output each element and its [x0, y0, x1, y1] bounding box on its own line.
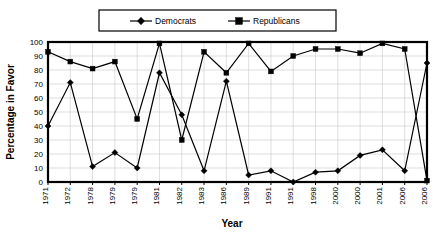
x-tick-label: 1986: [219, 186, 228, 204]
x-tick-label: 1978: [86, 186, 95, 204]
y-tick-label: 90: [34, 52, 43, 61]
square-marker-icon: [135, 117, 140, 122]
square-marker-icon: [46, 49, 51, 54]
x-tick-label: 1972: [63, 186, 72, 204]
x-tick-label: 1998: [309, 186, 318, 204]
x-tick-label: 2006: [398, 186, 407, 204]
y-tick-label: 60: [34, 94, 43, 103]
x-tick-label: 1982: [175, 186, 184, 204]
x-tick-label: 1991: [286, 186, 295, 204]
legend-label-republicans: Republicans: [253, 16, 300, 26]
square-marker-icon: [90, 66, 95, 71]
y-tick-label: 10: [34, 164, 43, 173]
x-tick-label: 1991: [264, 186, 273, 204]
square-marker-icon: [246, 41, 251, 46]
x-tick-label: 2000: [353, 186, 362, 204]
x-tick-label: 1971: [41, 186, 50, 204]
square-marker-icon: [380, 41, 385, 46]
square-marker-icon: [402, 47, 407, 52]
square-marker-icon: [202, 49, 207, 54]
chart-canvas: 0102030405060708090100 19711972197819791…: [0, 0, 442, 235]
line-chart: 0102030405060708090100 19711972197819791…: [0, 0, 442, 235]
y-axis-title: Percentage in Favor: [5, 64, 16, 160]
square-marker-icon: [335, 47, 340, 52]
square-marker-icon: [425, 178, 430, 183]
x-tick-label: 1979: [108, 186, 117, 204]
x-tick-label: 2006: [420, 186, 429, 204]
square-marker-icon: [157, 41, 162, 46]
square-marker-icon: [313, 47, 318, 52]
x-tick-label: 1979: [130, 186, 139, 204]
x-tick-label: 1981: [152, 186, 161, 204]
x-axis-title: Year: [221, 218, 242, 229]
y-tick-label: 0: [39, 178, 44, 187]
square-marker-icon: [358, 51, 363, 56]
legend-entry-republicans: Republicans: [228, 16, 300, 26]
y-tick-label: 80: [34, 66, 43, 75]
y-tick-label: 20: [34, 150, 43, 159]
y-tick-label: 50: [34, 108, 43, 117]
x-tick-label: 1983: [197, 186, 206, 204]
square-marker-icon: [68, 59, 73, 64]
x-tick-label: 2000: [331, 186, 340, 204]
x-tick-label: 1989: [242, 186, 251, 204]
square-marker-icon: [224, 70, 229, 75]
square-marker-icon: [179, 138, 184, 143]
x-tick-label: 2001: [375, 186, 384, 204]
y-tick-label: 40: [34, 122, 43, 131]
square-marker-icon: [291, 54, 296, 59]
y-tick-label: 100: [30, 38, 44, 47]
square-marker-icon: [236, 18, 243, 25]
legend-label-democrats: Democrats: [155, 16, 196, 26]
square-marker-icon: [112, 59, 117, 64]
y-tick-label: 30: [34, 136, 43, 145]
square-marker-icon: [269, 69, 274, 74]
chart-legend: Democrats Republicans: [99, 10, 336, 31]
y-tick-label: 70: [34, 80, 43, 89]
